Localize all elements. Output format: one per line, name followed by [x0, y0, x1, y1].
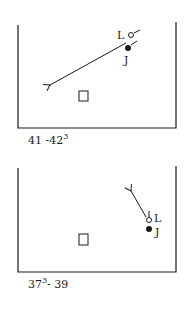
panel-2: L J 373- 39	[18, 166, 176, 291]
panel-1-arrow	[50, 43, 126, 85]
panel-1-label-j: J	[123, 54, 128, 67]
panel-1-open-marker-l	[129, 33, 134, 38]
panel-1-square	[79, 91, 88, 101]
panel-1-j-tail	[131, 41, 137, 45]
diagram-canvas: L J 41 -423 L J 373- 39	[0, 0, 184, 310]
panel-1-label-l: L	[117, 29, 125, 42]
panel-2-arrow	[131, 191, 146, 217]
panel-1-frame	[18, 22, 176, 128]
panel-2-label-j: J	[154, 226, 159, 239]
panel-2-open-marker-l	[147, 218, 152, 223]
panel-1-caption: 41 -423	[28, 132, 68, 147]
panel-2-label-l: L	[154, 212, 162, 225]
panel-2-caption: 373- 39	[28, 276, 68, 291]
panel-2-square	[79, 234, 88, 245]
panel-2-frame	[18, 166, 176, 272]
panel-1-filled-marker-j	[125, 45, 131, 51]
panel-2-filled-marker-j	[146, 226, 152, 232]
panel-1: L J 41 -423	[18, 22, 176, 147]
panel-1-l-tail	[134, 30, 140, 33]
